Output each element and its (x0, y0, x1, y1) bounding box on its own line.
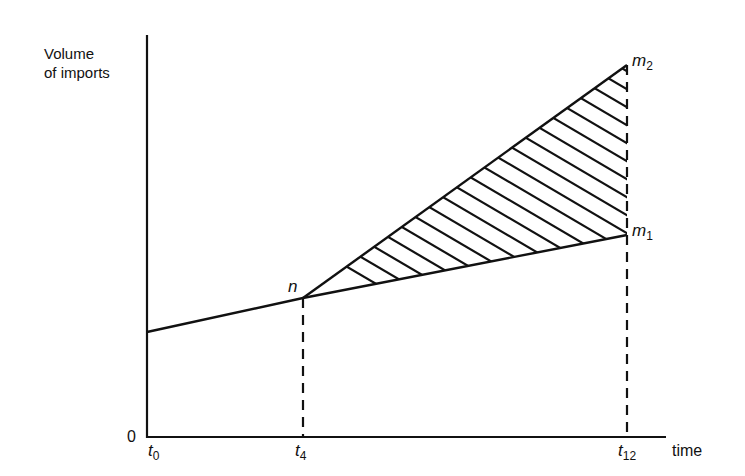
point-m2-base: m (632, 51, 646, 70)
base-trend-line (147, 235, 627, 332)
x-axis-label: time (672, 442, 702, 460)
origin-label: 0 (127, 428, 136, 446)
y-axis-label-line1: Volume (44, 44, 110, 63)
point-label-n: n (288, 278, 297, 296)
tick-label-t12: t12 (618, 442, 636, 465)
point-m1-base: m (632, 221, 646, 240)
y-axis-label: Volume of imports (44, 44, 110, 82)
tick-t4-sub: 4 (300, 449, 307, 463)
y-axis-label-line2: of imports (44, 63, 110, 82)
tick-label-t0: t0 (148, 442, 159, 465)
tick-label-t4: t4 (295, 442, 306, 465)
tick-t0-sub: 0 (153, 449, 160, 463)
shaded-hatched-region (240, 0, 700, 474)
point-label-m2: m2 (632, 52, 653, 75)
point-m1-sub: 1 (646, 229, 653, 243)
point-m2-sub: 2 (646, 59, 653, 73)
tick-t12-sub: 12 (623, 449, 636, 463)
point-label-m1: m1 (632, 222, 653, 245)
